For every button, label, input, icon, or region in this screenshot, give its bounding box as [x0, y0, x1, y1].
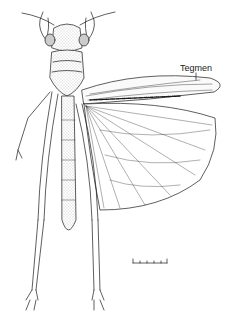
grasshopper-illustration	[0, 0, 237, 320]
pronotum	[50, 50, 84, 96]
left-antenna	[22, 13, 54, 25]
tegmen-label: Tegmen	[180, 63, 212, 73]
left-midleg	[16, 92, 50, 160]
scale-bar	[133, 259, 167, 263]
abdomen	[62, 96, 76, 230]
left-eye	[45, 34, 55, 46]
left-hindleg-tibia	[32, 220, 44, 290]
right-hindleg-tibia	[92, 220, 100, 290]
head	[52, 24, 82, 51]
right-eye	[79, 34, 89, 46]
hindwing	[84, 103, 216, 210]
